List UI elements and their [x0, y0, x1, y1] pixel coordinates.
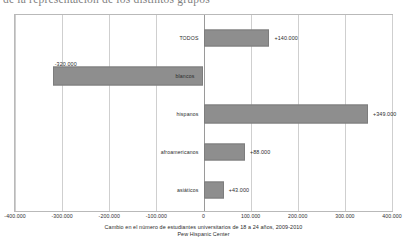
category-label: blancos — [176, 73, 195, 79]
bar[interactable] — [204, 144, 245, 161]
bar-row: hispanos+349.000 — [15, 95, 392, 133]
bar[interactable] — [204, 182, 224, 199]
caption-line-2: Pew Hispanic Center — [0, 231, 407, 238]
chart-caption: Cambio en el número de estudiantes unive… — [0, 224, 407, 238]
category-label: TODOS — [179, 35, 198, 41]
category-label: hispanos — [177, 111, 199, 117]
bar-row: TODOS+140.000 — [15, 19, 392, 57]
bar[interactable] — [204, 105, 368, 124]
value-label: +349.000 — [373, 111, 396, 117]
x-axis-tick-labels: -400.000-300.000-200.000-100.0000100.000… — [14, 213, 393, 223]
bar-row: asiáticos+43.000 — [15, 171, 392, 209]
x-tick-label: 0 — [202, 213, 205, 219]
x-tick-label: -200.000 — [99, 213, 120, 219]
x-tick-label: -400.000 — [4, 213, 25, 219]
bar-row: blancos-320.000 — [15, 57, 392, 95]
bar[interactable] — [204, 30, 270, 47]
category-label: asiáticos — [177, 187, 199, 193]
x-tick-label: -100.000 — [146, 213, 167, 219]
x-tick-label: 400.000 — [382, 213, 401, 219]
category-label: afroamericanos — [161, 149, 199, 155]
bar-row: afroamericanos+88.000 — [15, 133, 392, 171]
x-tick-label: -300.000 — [51, 213, 72, 219]
value-label: -320.000 — [55, 61, 77, 67]
caption-line-1: Cambio en el número de estudiantes unive… — [0, 224, 407, 231]
chart-plot-frame: TODOS+140.000blancos-320.000hispanos+349… — [14, 14, 393, 212]
x-tick-label: 200.000 — [288, 213, 307, 219]
cut-off-heading: de la representación de los distintos gr… — [0, 0, 407, 6]
chart-plot-area: TODOS+140.000blancos-320.000hispanos+349… — [15, 15, 392, 211]
value-label: +43.000 — [229, 187, 249, 193]
value-label: +140.000 — [274, 35, 297, 41]
value-label: +88.000 — [250, 149, 270, 155]
x-tick-label: 300.000 — [335, 213, 354, 219]
x-tick-label: 100.000 — [241, 213, 260, 219]
